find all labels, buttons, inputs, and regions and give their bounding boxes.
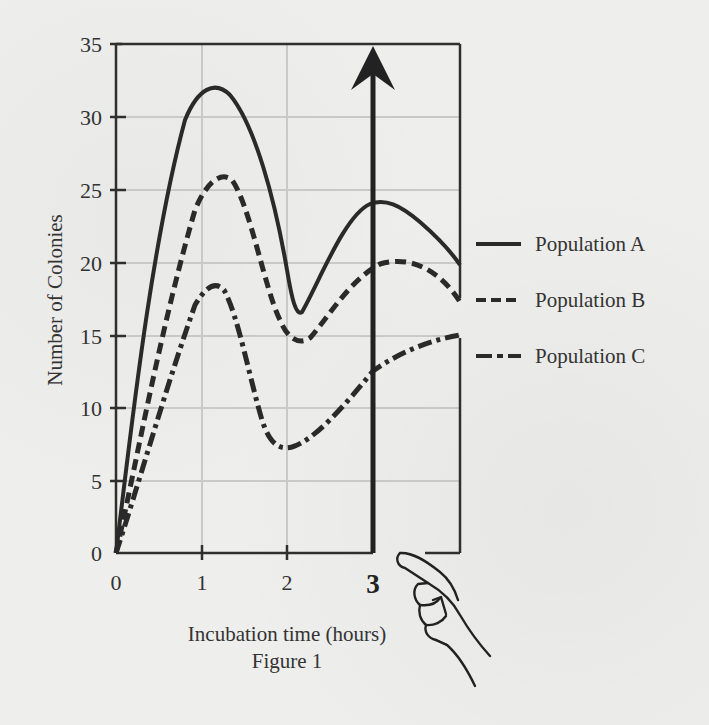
y-tick-labels: 35 30 25 20 15 10 5 0	[80, 32, 102, 566]
x-tick-0: 0	[111, 570, 122, 595]
y-tick-30: 30	[80, 105, 102, 130]
legend-label-a: Population A	[535, 232, 646, 256]
y-tick-35: 35	[80, 32, 102, 57]
legend-label-b: Population B	[535, 288, 645, 312]
y-tick-0: 0	[91, 541, 102, 566]
x-axis-title: Incubation time (hours)	[188, 622, 386, 646]
pointing-hand-icon	[397, 553, 490, 686]
legend: Population A Population B Population C	[476, 232, 646, 368]
arrow-at-x-3	[351, 46, 395, 553]
y-axis-title: Number of Colonies	[43, 214, 67, 385]
legend-item-population-c: Population C	[476, 344, 645, 368]
y-axis-ticks	[110, 44, 126, 481]
grid	[116, 44, 460, 553]
x-tick-2: 2	[282, 570, 293, 595]
x-tick-1: 1	[197, 570, 208, 595]
x-tick-3-highlighted: 3	[366, 569, 380, 599]
y-tick-20: 20	[80, 251, 102, 276]
legend-label-c: Population C	[535, 344, 645, 368]
figure-caption: Figure 1	[252, 649, 323, 673]
line-chart: 35 30 25 20 15 10 5 0 0 1 2 3 Incubation…	[0, 0, 709, 725]
y-tick-5: 5	[91, 469, 102, 494]
y-tick-25: 25	[80, 178, 102, 203]
y-tick-10: 10	[80, 396, 102, 421]
x-tick-labels: 0 1 2 3	[111, 569, 380, 599]
y-tick-15: 15	[80, 324, 102, 349]
legend-item-population-a: Population A	[476, 232, 646, 256]
legend-item-population-b: Population B	[476, 288, 645, 312]
